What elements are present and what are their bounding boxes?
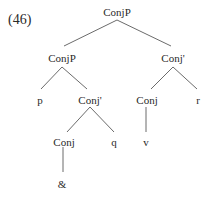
edge-left-conjp-mid-conjbar [62, 67, 87, 89]
tree-edges [0, 0, 207, 199]
node-ampersand: & [58, 178, 67, 190]
node-q: q [111, 136, 117, 148]
node-lower-conj: Conj [53, 136, 74, 148]
edge-root-left-conjp [64, 20, 117, 46]
node-p: p [37, 94, 43, 106]
node-root-conjp: ConjP [103, 6, 131, 18]
edge-root-right-conjbar [117, 20, 171, 46]
node-right-conj: Conj [136, 94, 157, 106]
node-right-conjbar: Conj' [161, 52, 184, 64]
node-left-conjp: ConjP [48, 52, 76, 64]
node-v: v [143, 136, 149, 148]
edge-mid-conjbar-lower-conj [67, 107, 90, 132]
node-mid-conjbar: Conj' [78, 94, 101, 106]
edge-right-conjbar-r [173, 67, 197, 89]
edge-left-conjp-p [41, 67, 62, 89]
edge-mid-conjbar-q [90, 107, 114, 132]
node-r: r [196, 94, 200, 106]
edge-right-conjbar-right-conj [151, 67, 173, 89]
